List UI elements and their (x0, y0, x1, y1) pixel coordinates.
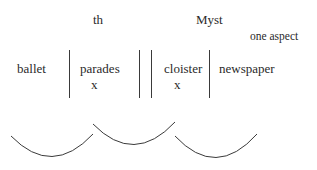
arc-2 (93, 122, 175, 145)
arc-3 (175, 134, 257, 158)
arcs-group (0, 0, 317, 170)
arc-1 (11, 134, 93, 157)
